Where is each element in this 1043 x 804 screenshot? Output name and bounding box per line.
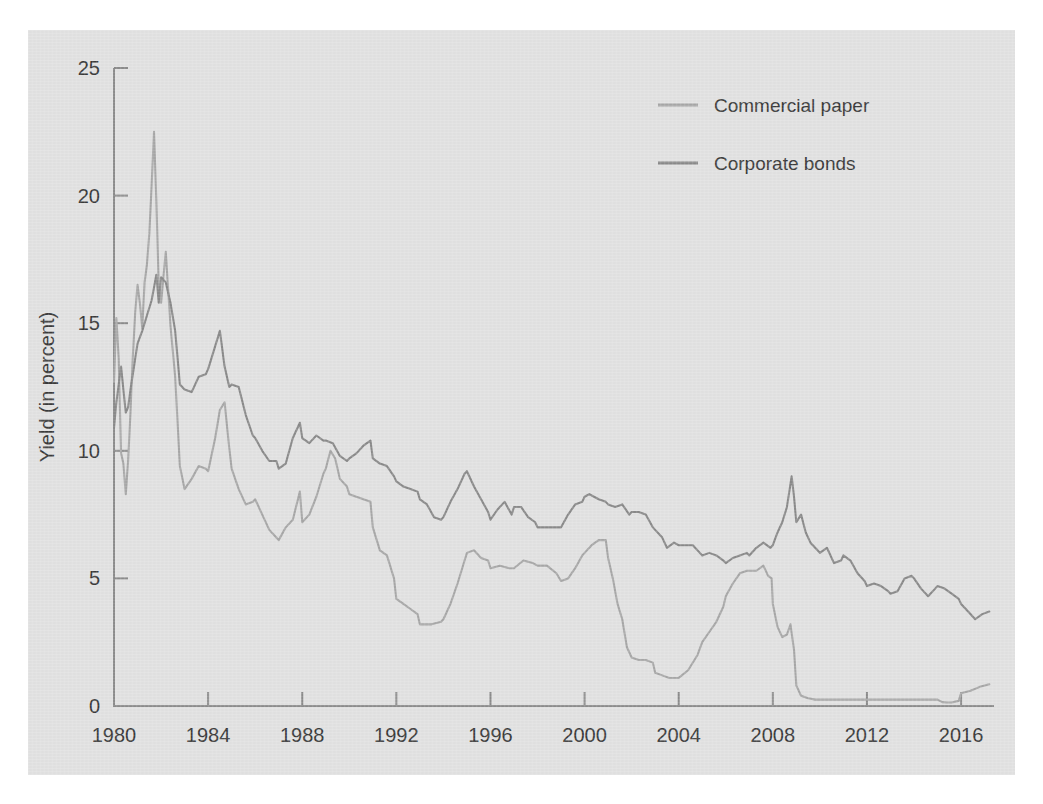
y-tick-label: 10 (78, 440, 100, 462)
x-tick-label: 2000 (562, 724, 607, 746)
y-tick-label: 5 (89, 567, 100, 589)
figure-container: 0510152025198019841988199219962000200420… (0, 0, 1043, 804)
legend-label-commercial-paper[interactable]: Commercial paper (714, 95, 870, 116)
series-line-commercial-paper (114, 132, 989, 703)
x-tick-label: 1992 (374, 724, 419, 746)
y-tick-label: 15 (78, 312, 100, 334)
series-line-corporate-bonds (114, 275, 989, 620)
x-tick-label: 1984 (186, 724, 231, 746)
line-chart[interactable]: 0510152025198019841988199219962000200420… (28, 30, 1015, 775)
x-tick-label: 1988 (280, 724, 325, 746)
x-tick-label: 2016 (939, 724, 984, 746)
legend-label-corporate-bonds[interactable]: Corporate bonds (714, 153, 856, 174)
y-axis-title: Yield (in percent) (36, 312, 58, 462)
x-tick-label: 1980 (92, 724, 137, 746)
y-tick-label: 20 (78, 185, 100, 207)
chart-legend[interactable]: Commercial paperCorporate bonds (658, 95, 870, 174)
x-tick-label: 2008 (751, 724, 796, 746)
axis-spine (114, 68, 994, 706)
y-tick-label: 0 (89, 695, 100, 717)
x-tick-label: 2004 (656, 724, 701, 746)
data-series (114, 132, 989, 703)
y-axis-title-text: Yield (in percent) (36, 312, 58, 462)
axes (114, 68, 994, 706)
chart-panel: 0510152025198019841988199219962000200420… (28, 30, 1015, 775)
x-tick-label: 2012 (845, 724, 890, 746)
y-tick-label: 25 (78, 57, 100, 79)
x-tick-label: 1996 (468, 724, 513, 746)
